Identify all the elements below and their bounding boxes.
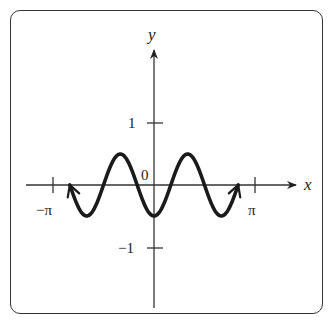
y-tick-label-1: 1	[128, 115, 136, 131]
x-tick-label-pi: π	[248, 202, 256, 218]
origin-label: 0	[141, 167, 149, 183]
chart-plot: y x 0 1 −1 −π π	[0, 0, 328, 326]
y-axis-label: y	[146, 25, 156, 44]
y-tick-label-neg1: −1	[118, 240, 134, 256]
x-tick-label-neg-pi: −π	[36, 202, 52, 218]
x-axis-label: x	[303, 175, 312, 194]
